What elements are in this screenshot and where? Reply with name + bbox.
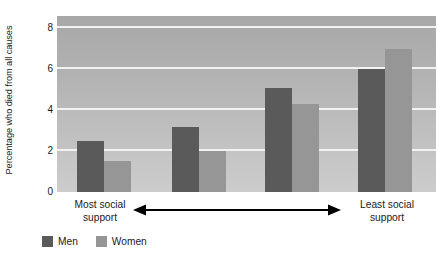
legend-swatch-men [42, 236, 53, 247]
legend-item-women: Women [96, 236, 147, 247]
bar-men-group-2 [172, 127, 199, 192]
bar-women-group-2 [199, 151, 226, 192]
bar-chart: Percentage who died from all causes 0246… [0, 0, 448, 256]
bars-layer [57, 16, 436, 192]
legend-swatch-women [96, 236, 107, 247]
bar-men-group-1 [77, 141, 104, 192]
bar-men-group-3 [265, 88, 292, 192]
bar-men-group-4 [358, 69, 385, 192]
legend-label-women: Women [112, 236, 147, 247]
most-social-line1: Most social [62, 199, 138, 212]
y-tick-label-2: 2 [31, 146, 53, 156]
bar-women-group-1 [104, 161, 131, 192]
least-social-line1: Least social [345, 199, 429, 212]
least-social-line2: support [345, 212, 429, 225]
bar-women-group-3 [292, 104, 319, 192]
category-label-most-social-support: Most social support [62, 199, 138, 224]
y-tick-label-0: 0 [31, 187, 53, 197]
chart-legend: MenWomen [42, 236, 147, 247]
y-axis-tick-labels: 02468 [31, 16, 53, 192]
legend-item-men: Men [42, 236, 78, 247]
bar-women-group-4 [385, 49, 412, 192]
y-tick-label-4: 4 [31, 105, 53, 115]
y-tick-label-8: 8 [31, 23, 53, 33]
y-axis-title: Percentage who died from all causes [2, 2, 16, 198]
y-tick-label-6: 6 [31, 64, 53, 74]
plot-area [57, 16, 436, 192]
legend-label-men: Men [58, 236, 78, 247]
most-social-line2: support [62, 212, 138, 225]
category-label-least-social-support: Least social support [345, 199, 429, 224]
axis-direction-arrow [133, 203, 341, 217]
